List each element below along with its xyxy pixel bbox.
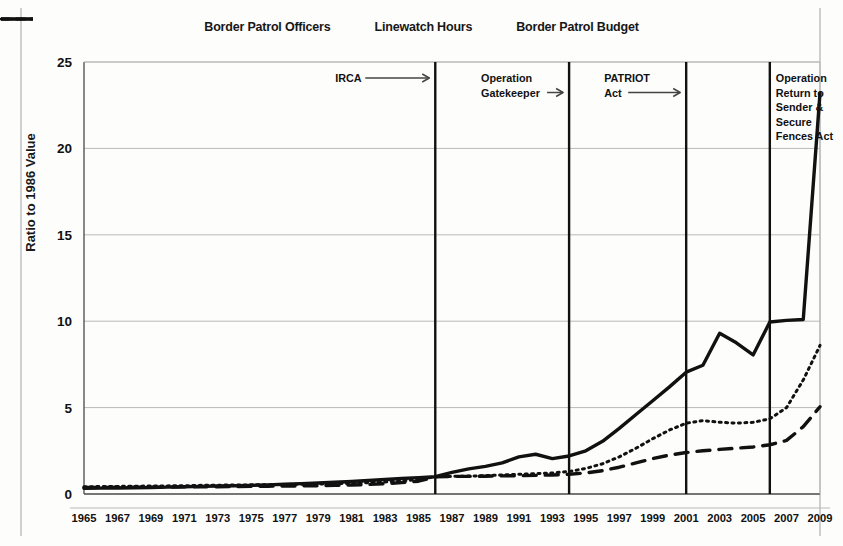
annotation-label-1994-line-0: Operation xyxy=(481,72,532,84)
x-tick-label-2005: 2005 xyxy=(741,512,766,524)
y-tick-label-5: 5 xyxy=(64,401,72,416)
x-tick-label-1977: 1977 xyxy=(272,512,297,524)
annotation-label-2001-line-1: Act xyxy=(604,87,622,99)
series-line-border-patrol-budget xyxy=(84,93,820,488)
annotation-label-2006-line-1: Return to xyxy=(776,87,824,99)
x-tick-label-2003: 2003 xyxy=(707,512,732,524)
x-tick-label-1967: 1967 xyxy=(105,512,130,524)
y-tick-label-15: 15 xyxy=(57,228,73,243)
x-tick-label-1981: 1981 xyxy=(339,512,364,524)
y-tick-label-25: 25 xyxy=(57,55,73,70)
y-tick-label-10: 10 xyxy=(57,314,72,329)
x-tick-label-2001: 2001 xyxy=(674,512,699,524)
x-tick-label-1975: 1975 xyxy=(239,512,264,524)
series-line-border-patrol-officers xyxy=(84,407,820,488)
x-tick-label-1999: 1999 xyxy=(640,512,665,524)
x-tick-label-1987: 1987 xyxy=(440,512,465,524)
x-tick-label-1989: 1989 xyxy=(473,512,498,524)
x-tick-label-1965: 1965 xyxy=(72,512,97,524)
y-tick-label-0: 0 xyxy=(64,487,72,502)
x-tick-label-1969: 1969 xyxy=(138,512,163,524)
annotation-label-2006-line-4: Fences Act xyxy=(776,130,834,142)
annotation-label-1994-line-1: Gatekeeper xyxy=(481,87,541,99)
annotation-label-2006-line-2: Sender & xyxy=(776,101,824,113)
x-tick-label-2009: 2009 xyxy=(808,512,833,524)
annotation-label-2006-line-0: Operation xyxy=(776,72,827,84)
x-tick-label-1995: 1995 xyxy=(573,512,598,524)
x-tick-label-1983: 1983 xyxy=(373,512,398,524)
annotation-label-1986-line-0: IRCA xyxy=(335,72,362,84)
annotation-label-2006-line-3: Secure xyxy=(776,116,812,128)
x-tick-label-1971: 1971 xyxy=(172,512,197,524)
y-tick-label-20: 20 xyxy=(57,141,72,156)
x-tick-label-1979: 1979 xyxy=(306,512,331,524)
plot-canvas: 0510152025196519671969197119731975197719… xyxy=(0,0,843,546)
x-tick-label-1991: 1991 xyxy=(506,512,531,524)
x-tick-label-1997: 1997 xyxy=(607,512,632,524)
chart-figure: Border Patrol Officers Linewatch Hours B… xyxy=(0,0,843,546)
x-tick-label-1973: 1973 xyxy=(205,512,230,524)
x-tick-label-2007: 2007 xyxy=(774,512,799,524)
annotation-label-2001-line-0: PATRIOT xyxy=(604,72,650,84)
x-tick-label-1985: 1985 xyxy=(406,512,431,524)
x-tick-label-1993: 1993 xyxy=(540,512,565,524)
series-line-linewatch-hours xyxy=(84,345,820,486)
